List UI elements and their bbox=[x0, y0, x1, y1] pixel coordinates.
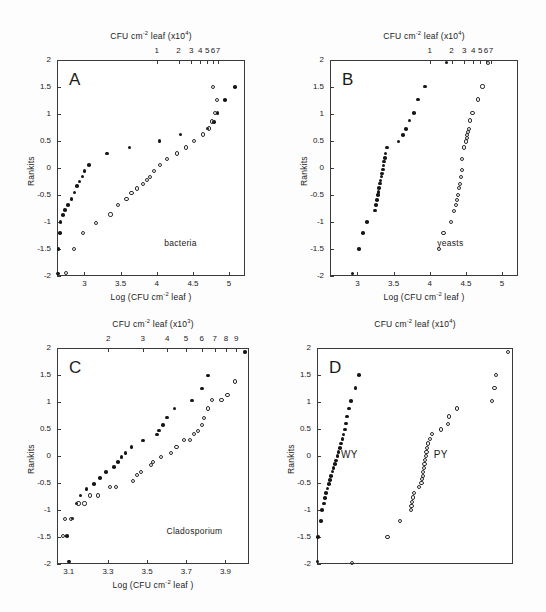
top-tick-label: 4 bbox=[471, 46, 475, 55]
y-tick-label: 1 bbox=[320, 109, 324, 118]
data-point bbox=[458, 182, 462, 186]
y-axis-label-c: Rankits bbox=[26, 444, 36, 474]
data-point bbox=[243, 350, 247, 354]
data-point bbox=[223, 98, 227, 102]
top-tick bbox=[179, 60, 180, 64]
top-tick bbox=[480, 60, 481, 64]
y-tick bbox=[317, 402, 321, 403]
y-tick-label: 1 bbox=[47, 109, 51, 118]
y-tick bbox=[57, 141, 61, 142]
y-tick-label: -1.5 bbox=[37, 244, 51, 253]
panel-c: CFU cm-2 leaf (x103)234567893.13.33.53.7… bbox=[0, 306, 273, 612]
top-tick-label: 7 bbox=[212, 334, 216, 343]
bottom-axis-title-b: Log (CFU cm-2 leaf ) bbox=[384, 291, 465, 302]
data-point bbox=[376, 193, 380, 197]
data-point bbox=[151, 460, 155, 464]
y-tick-label: -1.5 bbox=[310, 244, 324, 253]
data-point bbox=[476, 97, 480, 101]
y-tick-label: -2 bbox=[44, 559, 51, 568]
y-tick bbox=[57, 402, 61, 403]
y-tick-label: 1.5 bbox=[313, 82, 324, 91]
top-tick-label: 3 bbox=[189, 46, 193, 55]
y-tick-label: -0.5 bbox=[297, 478, 311, 487]
y-tick bbox=[57, 456, 61, 457]
y-tick bbox=[330, 276, 334, 277]
top-tick-label: 7 bbox=[489, 46, 493, 55]
data-point bbox=[354, 386, 358, 390]
bottom-tick bbox=[193, 272, 194, 276]
top-tick bbox=[202, 348, 203, 352]
top-axis-title-a: CFU cm-2 leaf (x104) bbox=[110, 30, 191, 41]
top-tick bbox=[213, 60, 214, 64]
data-point bbox=[416, 98, 420, 102]
data-point bbox=[200, 387, 204, 391]
data-point bbox=[92, 482, 96, 486]
top-tick bbox=[430, 60, 431, 64]
data-point bbox=[65, 534, 69, 538]
data-point bbox=[357, 247, 361, 251]
y-tick-label: -1 bbox=[44, 217, 51, 226]
annotation-b: yeasts bbox=[437, 238, 463, 248]
panel-d: CFU cm-2 leaf (x104)21.510.50-0.5-1-1.5-… bbox=[273, 306, 546, 612]
y-tick bbox=[317, 456, 321, 457]
data-point bbox=[56, 272, 60, 276]
bottom-tick bbox=[186, 560, 187, 564]
y-tick-label: 0 bbox=[47, 451, 51, 460]
y-tick bbox=[330, 249, 334, 250]
data-point bbox=[108, 212, 112, 216]
data-point bbox=[446, 422, 450, 426]
data-point bbox=[333, 462, 337, 466]
data-point bbox=[104, 470, 108, 474]
y-tick bbox=[330, 60, 334, 61]
data-point bbox=[135, 186, 139, 190]
y-tick bbox=[330, 168, 334, 169]
data-point bbox=[322, 502, 326, 506]
panel-b: CFU cm-2 leaf (x104)123456733.544.55Log … bbox=[273, 0, 546, 306]
data-point bbox=[462, 145, 466, 149]
top-tick bbox=[167, 348, 168, 352]
data-point bbox=[319, 519, 323, 523]
y-tick bbox=[57, 348, 61, 349]
top-tick bbox=[191, 60, 192, 64]
data-point bbox=[350, 561, 354, 565]
data-point bbox=[452, 209, 456, 213]
data-point bbox=[381, 168, 385, 172]
data-point bbox=[66, 203, 70, 207]
y-axis-label-a: Rankits bbox=[26, 156, 36, 186]
y-tick-label: 0.5 bbox=[313, 136, 324, 145]
data-point bbox=[490, 399, 494, 403]
y-tick-label: 1 bbox=[307, 397, 311, 406]
bottom-axis-title-a: Log (CFU cm-2 leaf ) bbox=[111, 291, 192, 302]
bottom-tick-label: 4.5 bbox=[187, 279, 198, 288]
data-point bbox=[206, 374, 210, 378]
y-tick bbox=[330, 114, 334, 115]
plot-area-a bbox=[57, 60, 245, 276]
data-point bbox=[155, 433, 159, 437]
y-tick-label: -2 bbox=[317, 271, 324, 280]
annotation-c: Cladosporium bbox=[166, 526, 222, 536]
data-point bbox=[98, 476, 102, 480]
top-tick-label: 7 bbox=[216, 46, 220, 55]
top-tick-label: 4 bbox=[198, 46, 202, 55]
y-tick bbox=[317, 483, 321, 484]
figure-rankit-plots: CFU cm-2 leaf (x104)123456733.544.55Log … bbox=[0, 0, 546, 612]
data-point bbox=[169, 451, 173, 455]
y-tick bbox=[317, 564, 321, 565]
y-tick bbox=[57, 375, 61, 376]
y-tick-label: 1.5 bbox=[300, 370, 311, 379]
panel-letter-b: B bbox=[342, 70, 354, 90]
data-point bbox=[349, 399, 353, 403]
data-point bbox=[201, 132, 205, 136]
data-point bbox=[468, 118, 472, 122]
top-tick-label: 5 bbox=[478, 46, 482, 55]
data-point bbox=[58, 231, 62, 235]
y-tick bbox=[57, 60, 61, 61]
top-tick bbox=[218, 60, 219, 64]
data-point bbox=[76, 501, 80, 505]
data-point bbox=[75, 184, 79, 188]
y-tick-label: 0 bbox=[307, 451, 311, 460]
data-point bbox=[324, 491, 328, 495]
bottom-tick-label: 3.5 bbox=[388, 279, 399, 288]
data-point bbox=[377, 190, 381, 194]
y-tick bbox=[57, 87, 61, 88]
